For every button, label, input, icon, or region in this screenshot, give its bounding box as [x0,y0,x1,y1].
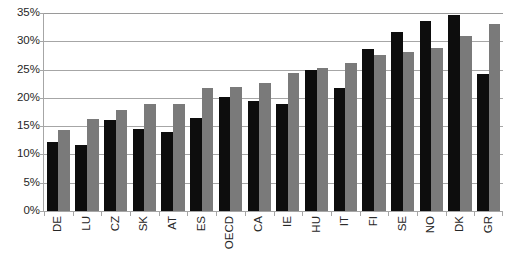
x-axis-category-label: OECD [224,216,236,249]
bar [161,132,173,211]
y-axis-tick-mark [39,98,44,99]
x-axis-category-label: CA [253,216,265,232]
x-axis-category-label: SE [397,216,409,231]
bar [75,145,87,211]
x-axis-category-label: IE [282,216,294,227]
x-axis-category-label: NO [425,216,437,233]
bar [288,73,300,211]
x-axis-category-label: DE [52,216,64,232]
x-axis-category-label: IT [339,216,351,226]
bar [173,104,185,211]
y-axis-tick-mark [39,154,44,155]
bar [489,24,501,211]
bar [190,118,202,211]
bars-layer [44,13,503,211]
bar [58,130,70,211]
y-axis-tick-label: 20% [2,92,40,104]
x-axis-category-label: SK [138,216,150,231]
bar [431,48,443,211]
x-axis-category-label: FI [368,216,380,226]
bar-chart: 0%5%10%15%20%25%30%35% DELUCZSKATESOECDC… [0,0,511,259]
bar [391,32,403,211]
bar [144,104,156,211]
bar [317,68,329,211]
y-axis-tick-mark [39,41,44,42]
bar [460,36,472,211]
x-axis-category-label: DK [454,216,466,232]
clipped-title-artifact [120,0,380,4]
bar [362,49,374,211]
bar [230,87,242,211]
bar [202,88,214,211]
bar [334,88,346,211]
bar [276,104,288,211]
bar [259,83,271,211]
y-axis-tick-label: 10% [2,149,40,161]
bar [448,15,460,211]
bar [87,119,99,211]
x-axis-category-label: HU [311,216,323,233]
y-axis-labels: 0%5%10%15%20%25%30%35% [0,0,40,259]
bar [104,120,116,211]
y-axis-tick-label: 0% [2,205,40,217]
bar [403,52,415,211]
x-axis-labels: DELUCZSKATESOECDCAIEHUITFISENODKGR [44,216,503,259]
bar [219,97,231,211]
bar [133,129,145,211]
x-axis-category-label: LU [81,216,93,231]
x-axis-category-label: CZ [110,216,122,231]
x-axis-category-label: AT [167,216,179,230]
y-axis-tick-label: 30% [2,36,40,48]
bar [305,70,317,211]
y-axis-tick-label: 5% [2,177,40,189]
y-axis-tick-mark [39,70,44,71]
bar [477,74,489,211]
y-axis-tick-mark [39,183,44,184]
y-axis-tick-label: 25% [2,64,40,76]
y-axis-tick-mark [39,13,44,14]
bar [345,63,357,211]
x-axis-category-label: ES [196,216,208,231]
bar [248,101,260,211]
bar [420,21,432,211]
bar [47,142,59,211]
y-axis-tick-mark [39,211,44,212]
bar [374,55,386,211]
y-axis-tick-label: 35% [2,7,40,19]
y-axis-tick-label: 15% [2,120,40,132]
x-axis-category-label: GR [483,216,495,233]
bar [116,110,128,211]
y-axis-tick-mark [39,126,44,127]
